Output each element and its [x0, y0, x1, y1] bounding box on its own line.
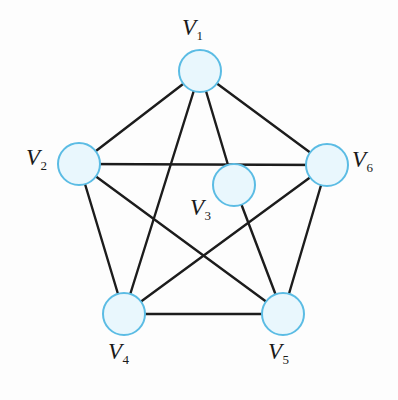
graph-node-v2 — [58, 143, 100, 185]
graph-node-v4 — [103, 293, 145, 335]
vertex-label-v4: V4 — [108, 340, 129, 366]
vertex-label-v1: V1 — [182, 16, 203, 42]
graph-node-v6 — [306, 144, 348, 186]
edge-layer — [79, 71, 327, 314]
vertex-label-subscript: 4 — [123, 352, 130, 367]
graph-edge-v5-v6 — [283, 165, 327, 314]
node-layer — [58, 50, 348, 335]
vertex-label-subscript: 2 — [41, 158, 48, 173]
vertex-label-subscript: 5 — [283, 352, 290, 367]
vertex-label-letter: V — [108, 339, 122, 364]
vertex-label-letter: V — [190, 195, 204, 220]
vertex-label-letter: V — [26, 145, 40, 170]
graph-node-v3 — [213, 164, 255, 206]
graph-node-v5 — [262, 293, 304, 335]
graph-edge-v1-v4 — [124, 71, 200, 314]
graph-edge-v2-v4 — [79, 164, 124, 314]
vertex-label-letter: V — [182, 15, 196, 40]
graph-edge-v1-v6 — [200, 71, 327, 165]
graph-node-v1 — [179, 50, 221, 92]
vertex-label-letter: V — [268, 339, 282, 364]
graph-edge-v1-v2 — [79, 71, 200, 164]
vertex-label-subscript: 6 — [367, 160, 374, 175]
graph-edge-v2-v6 — [79, 164, 327, 165]
vertex-label-subscript: 3 — [205, 208, 212, 223]
vertex-label-v6: V6 — [352, 148, 373, 174]
vertex-label-subscript: 1 — [197, 28, 204, 43]
vertex-label-v5: V5 — [268, 340, 289, 366]
vertex-label-v2: V2 — [26, 146, 47, 172]
graph-diagram: V1V2V3V4V5V6 — [0, 0, 398, 400]
vertex-label-letter: V — [352, 147, 366, 172]
vertex-label-v3: V3 — [190, 196, 211, 222]
